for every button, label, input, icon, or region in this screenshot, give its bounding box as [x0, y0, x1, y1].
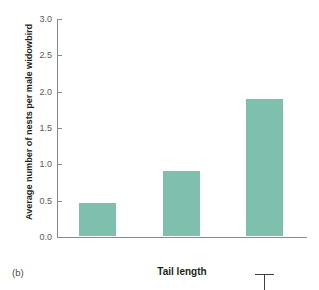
y-tick-label: 2.5: [39, 50, 52, 60]
y-axis-title: Average number of nests per male widowbi…: [24, 12, 34, 232]
y-tick-label: 2.0: [39, 87, 52, 97]
y-tick-mark: [58, 55, 62, 56]
panel-letter: (b): [12, 267, 24, 278]
y-tick-label: 0.5: [39, 196, 52, 206]
bar: [79, 203, 116, 236]
x-axis-title: Tail length: [57, 266, 307, 277]
y-tick-mark: [58, 128, 62, 129]
figure-panel-b: Average number of nests per male widowbi…: [0, 0, 319, 290]
plot-area: 0.00.51.01.52.02.53.0 ShortenedControlLe…: [57, 19, 307, 237]
y-tick-label: 1.0: [39, 159, 52, 169]
bar: [246, 99, 283, 236]
y-tick-mark: [58, 92, 62, 93]
y-tick-mark: [58, 164, 62, 165]
y-tick-label: 1.5: [39, 123, 52, 133]
y-tick-mark: [58, 19, 62, 20]
y-tick-mark: [58, 201, 62, 202]
y-tick-label: 3.0: [39, 14, 52, 24]
y-tick-mark: [58, 237, 62, 238]
bar: [163, 171, 200, 236]
y-tick-label: 0.0: [39, 232, 52, 242]
x-axis-line: [57, 237, 307, 238]
